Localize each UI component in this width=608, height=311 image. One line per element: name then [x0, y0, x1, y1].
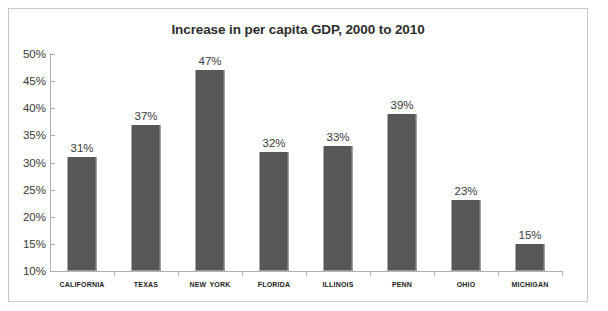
x-axis-labels: CaliforniaTexasNew YorkFloridaIllinoisPe…	[50, 277, 562, 297]
bar-slot: 39%	[370, 54, 434, 271]
bar[interactable]	[260, 152, 289, 271]
x-axis-tick-mark	[370, 271, 371, 276]
x-axis-tick-mark	[114, 271, 115, 276]
y-axis-tick-label: 20%	[12, 211, 46, 223]
bar-value-label: 39%	[390, 99, 413, 111]
y-axis-tick-label: 10%	[12, 265, 46, 277]
bar-value-label: 37%	[134, 110, 157, 122]
chart-title: Increase in per capita GDP, 2000 to 2010	[9, 22, 587, 37]
y-axis-tick-label: 40%	[12, 102, 46, 114]
x-axis-category-label: Illinois	[306, 277, 370, 289]
x-axis-tick-mark	[306, 271, 307, 276]
bar-slot: 15%	[498, 54, 562, 271]
bar[interactable]	[452, 200, 481, 271]
bar[interactable]	[196, 70, 225, 271]
y-axis-tick-label: 30%	[12, 157, 46, 169]
bar-slot: 23%	[434, 54, 498, 271]
bar-slot: 31%	[50, 54, 114, 271]
y-axis-tick-mark	[50, 54, 55, 55]
y-axis-tick-mark	[50, 108, 55, 109]
x-axis-tick-mark	[562, 271, 563, 276]
y-axis-labels: 50%45%40%35%30%25%20%15%10%	[9, 9, 46, 303]
y-axis-tick-label: 15%	[12, 238, 46, 250]
x-axis-tick-mark	[178, 271, 179, 276]
y-axis-tick-mark	[50, 244, 55, 245]
x-axis-category-label: Ohio	[434, 277, 498, 289]
y-axis-tick-mark	[50, 190, 55, 191]
bar-value-label: 15%	[518, 229, 541, 241]
y-axis-tick-mark	[50, 163, 55, 164]
y-axis-tick-mark	[50, 135, 55, 136]
x-axis-tick-mark	[434, 271, 435, 276]
x-axis-tick-mark	[498, 271, 499, 276]
chart-frame: Increase in per capita GDP, 2000 to 2010…	[8, 8, 588, 302]
bar[interactable]	[68, 157, 97, 271]
bar[interactable]	[324, 146, 353, 271]
y-axis-tick-mark	[50, 217, 55, 218]
y-axis-tick-label: 25%	[12, 184, 46, 196]
plot-area: 31%37%47%32%33%39%23%15%	[50, 54, 562, 271]
bar-slot: 47%	[178, 54, 242, 271]
x-axis-category-label: New York	[178, 277, 242, 289]
y-axis-tick-label: 45%	[12, 75, 46, 87]
bar-value-label: 31%	[70, 142, 93, 154]
y-axis-tick-label: 50%	[12, 48, 46, 60]
x-axis-category-label: Texas	[114, 277, 178, 289]
y-axis-tick-mark	[50, 271, 55, 272]
bar-value-label: 32%	[262, 137, 285, 149]
bar[interactable]	[388, 114, 417, 271]
x-axis-category-label: Florida	[242, 277, 306, 289]
bar[interactable]	[132, 125, 161, 271]
x-axis-category-label: Penn	[370, 277, 434, 289]
y-axis-tick-label: 35%	[12, 129, 46, 141]
bar-slot: 32%	[242, 54, 306, 271]
bar[interactable]	[516, 244, 545, 271]
bar-value-label: 23%	[454, 185, 477, 197]
bar-value-label: 33%	[326, 131, 349, 143]
bar-value-label: 47%	[198, 55, 221, 67]
bar-slot: 33%	[306, 54, 370, 271]
y-axis-tick-mark	[50, 81, 55, 82]
x-axis-category-label: Michigan	[498, 277, 562, 289]
bar-slot: 37%	[114, 54, 178, 271]
x-axis-category-label: California	[50, 277, 114, 289]
x-axis-tick-mark	[242, 271, 243, 276]
